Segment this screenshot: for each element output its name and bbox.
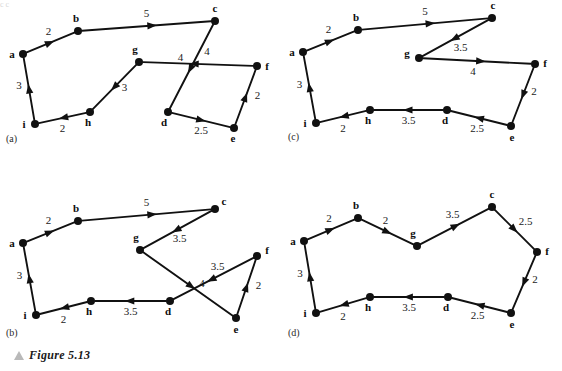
node-dot bbox=[19, 50, 27, 58]
node-dot bbox=[19, 239, 27, 247]
edge-weight-label: 2 bbox=[326, 23, 332, 35]
figure-caption-text: Figure 5.13 bbox=[29, 348, 90, 363]
edge-d-g-c: 3.5 bbox=[421, 208, 489, 245]
node-label: a bbox=[289, 46, 295, 58]
arrow-head-icon bbox=[382, 227, 392, 234]
node-dot bbox=[253, 252, 261, 260]
node-b-e: e bbox=[232, 314, 240, 335]
node-label: b bbox=[73, 202, 79, 214]
node-dot bbox=[366, 106, 374, 114]
edge-a-a-b: 2 bbox=[27, 25, 75, 53]
graph-panel-c: 3253.5422.53.52abcdefghi bbox=[289, 0, 547, 143]
triangle-up-icon bbox=[14, 351, 24, 360]
edge-a-i-a: 3 bbox=[16, 58, 34, 120]
edge-weight-label: 2 bbox=[60, 122, 66, 134]
panel-tag-b: (b) bbox=[6, 327, 18, 339]
edge-d-c-f: 2.5 bbox=[495, 210, 534, 249]
node-label: f bbox=[545, 245, 549, 257]
node-label: g bbox=[410, 227, 416, 239]
edge-c-g-f: 4 bbox=[423, 57, 531, 77]
arrow-head-icon bbox=[521, 89, 528, 99]
edge-weight-label: 5 bbox=[422, 5, 428, 17]
node-b-g: g bbox=[133, 231, 144, 254]
figure-sheet: c c 32542.52432abcdefghi3253.5423.53.52a… bbox=[0, 0, 562, 371]
node-label: d bbox=[165, 305, 171, 317]
node-dot bbox=[164, 108, 172, 116]
node-c-e: e bbox=[507, 122, 515, 143]
node-label: c bbox=[213, 2, 218, 14]
edge-weight-label: 5 bbox=[144, 196, 150, 208]
node-a-b: b bbox=[73, 12, 82, 35]
node-label: d bbox=[443, 301, 449, 313]
node-a-i: i bbox=[22, 118, 39, 130]
node-d-h: h bbox=[365, 293, 374, 313]
arrow-head-icon bbox=[44, 41, 54, 48]
panel-tag-a: (a) bbox=[6, 133, 17, 145]
edge-weight-label: 3.5 bbox=[173, 232, 187, 244]
edge-c-f-e: 2 bbox=[512, 68, 536, 123]
edge-a-g-h: 3 bbox=[93, 65, 136, 109]
arrow-head-icon bbox=[403, 293, 413, 300]
edge-weight-label: 3 bbox=[122, 81, 128, 93]
node-dot bbox=[253, 62, 261, 70]
node-label: h bbox=[365, 301, 371, 313]
node-label: a bbox=[9, 48, 15, 60]
arrow-head-icon bbox=[207, 274, 217, 282]
edge-weight-label: 2 bbox=[46, 25, 52, 37]
edge-weight-label: 2 bbox=[61, 313, 67, 325]
node-label: e bbox=[234, 323, 239, 335]
graph-panel-a: 32542.52432abcdefghi bbox=[9, 2, 269, 144]
node-b-i: i bbox=[23, 309, 40, 321]
arrow-head-icon bbox=[26, 84, 33, 94]
node-d-b: b bbox=[353, 199, 362, 222]
edge-b-c-g: 3.5 bbox=[144, 211, 212, 248]
edge-c-h-i: 2 bbox=[320, 111, 366, 134]
arrow-head-icon bbox=[403, 106, 413, 113]
node-label: h bbox=[86, 305, 92, 317]
edge-weight-label: 3.5 bbox=[402, 301, 416, 313]
edge-d-i-a: 3 bbox=[297, 245, 315, 309]
edge-a-c-d: 4 bbox=[170, 25, 213, 109]
node-label: i bbox=[22, 118, 25, 130]
node-dot bbox=[32, 311, 40, 319]
graph-panel-b: 3253.5423.53.52abcdefghi bbox=[9, 195, 269, 335]
edge-c-a-b: 2 bbox=[307, 23, 355, 51]
edge-weight-label: 3 bbox=[17, 269, 23, 281]
node-d-d: d bbox=[443, 293, 452, 313]
graph-panel-d: 3223.52.522.53.52abcdefghi bbox=[290, 188, 549, 330]
node-label: g bbox=[133, 231, 139, 243]
edge-weight-label: 4 bbox=[178, 51, 184, 63]
arrow-head-icon bbox=[27, 274, 34, 284]
node-label: g bbox=[132, 43, 138, 55]
edge-b-i-a: 3 bbox=[17, 247, 36, 311]
node-d-f: f bbox=[533, 245, 549, 257]
node-dot bbox=[211, 17, 219, 25]
node-label: c bbox=[491, 0, 496, 11]
arrow-head-icon bbox=[522, 277, 529, 287]
edge-weight-label: 2 bbox=[532, 273, 538, 285]
edge-c-i-a: 3 bbox=[297, 56, 316, 119]
edge-weight-label: 3.5 bbox=[402, 114, 416, 126]
arrow-head-icon bbox=[450, 33, 460, 41]
edge-weight-label: 2 bbox=[326, 212, 332, 224]
node-b-c: c bbox=[211, 195, 227, 213]
node-label: f bbox=[543, 57, 547, 69]
node-label: d bbox=[442, 114, 448, 126]
node-b-h: h bbox=[86, 297, 95, 317]
node-b-f: f bbox=[253, 244, 269, 260]
arrow-head-icon bbox=[325, 228, 335, 235]
edge-weight-label: 2.5 bbox=[471, 309, 485, 321]
node-label: e bbox=[510, 318, 515, 330]
node-d-g: g bbox=[410, 227, 421, 250]
edge-line bbox=[362, 18, 488, 29]
node-dot bbox=[533, 248, 541, 256]
node-dot bbox=[443, 106, 451, 114]
edge-a-e-f: 2 bbox=[235, 70, 260, 124]
node-a-c: c bbox=[211, 2, 219, 25]
node-dot bbox=[444, 293, 452, 301]
panel-tag-d: (d) bbox=[288, 327, 300, 339]
edge-line bbox=[82, 21, 211, 30]
arrow-head-icon bbox=[242, 283, 249, 293]
edge-b-e-f: 2 bbox=[237, 260, 261, 314]
edge-c-c-g: 3.5 bbox=[423, 20, 489, 56]
